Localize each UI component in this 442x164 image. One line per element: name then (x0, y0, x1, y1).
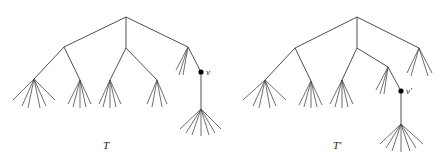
leaf-edge (335, 80, 342, 107)
leaf-edge (80, 80, 91, 104)
tree-edge (126, 17, 188, 47)
marked-node-label: v′ (406, 86, 413, 96)
leaf-edge (110, 80, 121, 104)
leaf-edge (253, 80, 265, 106)
marked-node-dot (398, 88, 403, 93)
leaf-edge (34, 79, 40, 108)
leaf-edge (342, 80, 348, 107)
marked-node-dot (198, 69, 203, 74)
leaf-edge (330, 80, 342, 104)
tree-edge (34, 47, 64, 79)
tree-label: T′ (333, 139, 342, 151)
leaf-edge (80, 80, 86, 107)
tree-T: vT (13, 17, 221, 151)
leaf-edge (22, 79, 34, 106)
tree-edge (188, 47, 201, 72)
tree-edge (357, 48, 388, 67)
tree-comparison-diagram: vT v′T′ (0, 0, 442, 164)
tree-edge (126, 48, 157, 80)
leaf-edge (265, 80, 276, 106)
tree-edge (342, 48, 357, 80)
leaf-edge (342, 80, 353, 104)
marked-node-label: v (206, 67, 210, 77)
tree-edge (110, 48, 126, 80)
tree-edge (64, 47, 80, 80)
leaf-edge (34, 79, 46, 106)
leaf-edge (13, 79, 34, 100)
leaf-edge (157, 80, 167, 104)
tree-edge (357, 17, 419, 48)
leaf-edge (304, 81, 311, 107)
leaf-edge (28, 79, 34, 108)
tree-T-prime: v′T′ (243, 17, 432, 152)
leaf-edge (110, 80, 116, 107)
leaf-edge (152, 80, 157, 107)
tree-label: T (103, 139, 110, 151)
leaf-edge (34, 79, 55, 100)
leaf-edge (311, 81, 322, 105)
tree-edge (265, 48, 295, 80)
tree-edge (388, 67, 401, 91)
leaf-edge (157, 80, 162, 107)
leaf-edge (73, 80, 80, 107)
tree-edge (295, 48, 311, 81)
tree-edge (295, 17, 357, 48)
leaf-edge (68, 80, 80, 104)
leaf-edge (299, 81, 311, 105)
tree-edge (64, 17, 126, 47)
leaf-edge (311, 81, 317, 107)
leaf-edge (147, 80, 157, 104)
diagram-svg: vT v′T′ (0, 0, 442, 164)
